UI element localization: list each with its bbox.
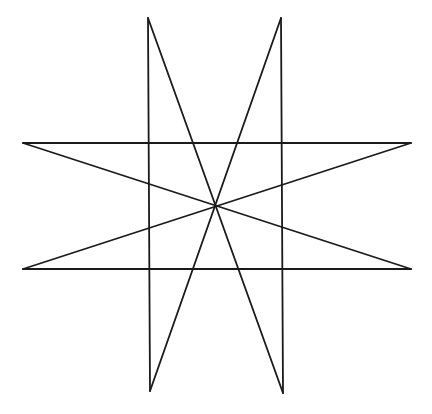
line-vertical-right [281,18,283,393]
line-vertical-left [148,18,150,391]
star-figure [0,0,432,414]
